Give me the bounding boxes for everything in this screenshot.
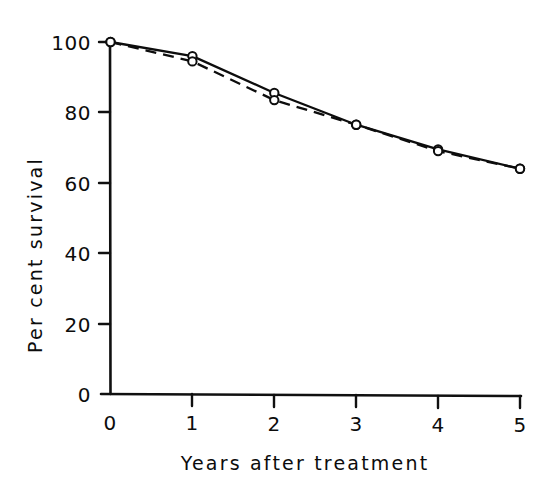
x-tick-label-2: 2 — [267, 412, 280, 436]
y-tick-label-20: 20 — [65, 313, 91, 337]
x-tick-label-5: 5 — [513, 413, 526, 437]
y-tick-label-80: 80 — [65, 101, 91, 125]
axis-group — [101, 40, 521, 396]
x-tick-labels: 0 1 2 3 4 5 — [103, 411, 526, 437]
chart-figure: 100 80 60 40 20 0 0 1 2 3 4 5 Per cent s… — [0, 0, 556, 490]
y-tick-label-40: 40 — [65, 242, 91, 266]
data-point-marker — [106, 38, 114, 46]
series-markers-dashed-curve — [106, 38, 524, 173]
data-point-marker — [188, 57, 196, 65]
x-tick-label-3: 3 — [349, 412, 362, 436]
x-tick-label-4: 4 — [431, 413, 444, 437]
series-line-dashed-curve — [111, 42, 521, 169]
y-tick-label-0: 0 — [78, 383, 91, 407]
y-tick-label-60: 60 — [65, 172, 91, 196]
x-tick-label-0: 0 — [103, 411, 116, 435]
data-point-marker — [270, 96, 278, 104]
y-tick-labels: 100 80 60 40 20 0 — [51, 31, 91, 407]
y-axis-title: Per cent survival — [24, 157, 46, 353]
y-tick-marks — [99, 42, 110, 324]
data-point-marker — [434, 147, 442, 155]
x-axis-line — [101, 394, 521, 396]
x-tick-label-1: 1 — [185, 411, 198, 435]
series-markers-solid-curve — [106, 38, 524, 173]
data-point-marker — [516, 165, 524, 173]
y-tick-label-100: 100 — [51, 31, 91, 55]
data-point-marker — [352, 121, 360, 129]
survival-line-chart: 100 80 60 40 20 0 0 1 2 3 4 5 Per cent s… — [0, 0, 556, 490]
data-series-layer — [106, 38, 524, 173]
series-line-solid-curve — [111, 42, 521, 169]
x-axis-title: Years after treatment — [180, 452, 430, 474]
y-axis-line — [110, 40, 111, 394]
